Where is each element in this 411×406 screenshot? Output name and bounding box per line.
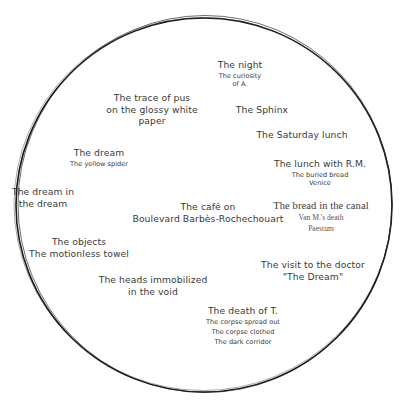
node-line: the dream (12, 198, 74, 210)
node-line: The objects (29, 236, 129, 248)
node-saturday-lunch: The Saturday lunch (256, 129, 347, 141)
node-line: The dream in (12, 186, 74, 198)
memory-diagram: The night The curiosity of A. The trace … (0, 0, 411, 406)
node-line: "The Dream" (261, 271, 365, 283)
node-line: The café on (132, 201, 283, 213)
node-visit-to-doctor: The visit to the doctor "The Dream" (261, 259, 365, 282)
node-title: The lunch with R.M. (274, 158, 366, 170)
node-sub: Paestum (273, 223, 369, 235)
node-sub: The corpse clothed (206, 327, 280, 337)
node-trace-of-pus: The trace of pus on the glossy white pap… (106, 92, 197, 127)
node-heads-immobilized: The heads immobilized in the void (99, 274, 208, 297)
node-line: Boulevard Barbès-Rochechouart (132, 213, 283, 225)
node-line: The heads immobilized (99, 274, 208, 286)
node-title: The death of T. (206, 305, 280, 317)
node-title: The Sphinx (236, 104, 288, 116)
node-the-sphinx: The Sphinx (236, 104, 288, 116)
node-sub: Venice (274, 178, 366, 188)
node-the-night: The night The curiosity of A. (218, 59, 263, 89)
node-title: The dream (70, 147, 128, 159)
node-cafe: The café on Boulevard Barbès-Rochechouar… (132, 201, 283, 224)
node-line: The trace of pus (106, 92, 197, 104)
node-line: paper (106, 115, 197, 127)
node-title: The Saturday lunch (256, 129, 347, 141)
node-sub: The yellow spider (70, 159, 128, 169)
node-line: in the void (99, 286, 208, 298)
node-line: The visit to the doctor (261, 259, 365, 271)
node-the-objects: The objects The motionless towel (29, 236, 129, 259)
node-dream-in-dream: The dream in the dream (12, 186, 74, 209)
node-bread-in-canal: The bread in the canal Van M.'s death Pa… (273, 199, 369, 235)
node-line: on the glossy white (106, 104, 197, 116)
node-lunch-with-rm: The lunch with R.M. The buried bread Ven… (274, 158, 366, 188)
node-title: The bread in the canal (273, 199, 369, 212)
node-title: The night (218, 59, 263, 71)
node-sub: The dark corridor (206, 337, 280, 347)
node-sub: The corpse spread out (206, 317, 280, 327)
node-the-dream: The dream The yellow spider (70, 147, 128, 169)
node-line: The motionless towel (29, 248, 129, 260)
node-death-of-t: The death of T. The corpse spread out Th… (206, 305, 280, 347)
